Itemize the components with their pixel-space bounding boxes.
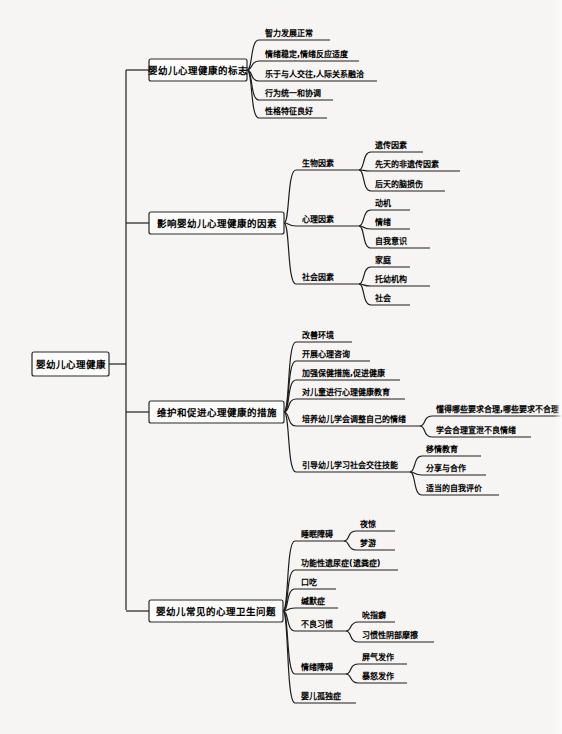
grandchild-node-label: 屏气发作 <box>362 652 394 662</box>
connector-line <box>359 267 371 284</box>
connector-line <box>283 541 295 611</box>
mindmap-canvas: 婴幼儿心理健康婴幼儿心理健康的标志智力发展正常情绪稳定,情绪反应适度乐于与人交往… <box>0 0 562 734</box>
connector-line <box>247 70 259 100</box>
grandchild-node-label: 情绪 <box>374 217 391 227</box>
child-node-label: 乐于与人交往,人际关系融洽 <box>265 69 365 79</box>
child-node-label: 情绪障碍 <box>300 662 333 672</box>
connector-line <box>420 416 432 426</box>
connector-line <box>284 223 296 284</box>
grandchild-node-label: 分享与合作 <box>426 463 466 473</box>
branch-node-label: 维护和促进心理健康的措施 <box>157 407 277 418</box>
child-node-label: 功能性遗尿症(遗粪症) <box>301 558 380 568</box>
connector-line <box>344 541 356 550</box>
child-node-label: 社会因素 <box>301 272 334 282</box>
child-node-label: 引导幼儿学习社会交往技能 <box>302 460 398 470</box>
grandchild-node-label: 先天的非遗传因素 <box>375 159 439 169</box>
connector-line <box>346 631 358 642</box>
grandchild-node-label: 吮指癖 <box>362 610 386 620</box>
child-node-label: 开展心理咨询 <box>302 349 350 359</box>
connector-line <box>346 674 358 683</box>
child-node-label: 心理因素 <box>302 214 334 224</box>
grandchild-node-label: 暴怒发作 <box>361 671 394 681</box>
connector-line <box>346 664 358 674</box>
child-node-label: 加强保健措施,促进健康 <box>301 368 386 378</box>
grandchild-node-label: 家庭 <box>375 255 392 265</box>
child-node-label: 对儿童进行心理健康教育 <box>302 387 390 397</box>
grandchild-node-label: 懂得哪些要求合理,哪些要求不合理 <box>435 404 559 414</box>
child-node-label: 不良习惯 <box>301 619 333 629</box>
grandchild-node-label: 移情教育 <box>426 444 458 454</box>
connector-line <box>283 611 295 674</box>
grandchild-node-label: 适当的自我评价 <box>426 483 483 493</box>
connector-line <box>359 152 371 170</box>
connector-line <box>410 456 422 472</box>
mindmap-svg: 婴幼儿心理健康婴幼儿心理健康的标志智力发展正常情绪稳定,情绪反应适度乐于与人交往… <box>0 0 562 734</box>
grandchild-node-label: 自我意识 <box>375 236 407 246</box>
connector-line <box>344 531 356 541</box>
child-node-label: 生物因素 <box>302 158 334 168</box>
child-node-label: 培养幼儿学会调整自己的情绪 <box>302 414 406 424</box>
grandchild-node-label: 夜惊 <box>359 519 376 529</box>
child-node-label: 口吃 <box>301 577 317 587</box>
child-node-label: 行为统一和协调 <box>264 88 321 98</box>
child-node-label: 智力发展正常 <box>265 28 313 38</box>
child-node-label: 睡眠障碍 <box>301 529 333 539</box>
connector-line <box>346 622 358 631</box>
grandchild-node-label: 习惯性阴部摩擦 <box>362 630 418 640</box>
grandchild-node-label: 梦游 <box>359 538 376 548</box>
grandchild-node-label: 动机 <box>375 198 391 208</box>
connector-line <box>247 40 259 70</box>
grandchild-node-label: 学会合理宣泄不良情绪 <box>436 425 516 435</box>
connector-line <box>359 284 371 305</box>
grandchild-node-label: 后天的脑损伤 <box>375 179 423 189</box>
connector-line <box>359 170 371 191</box>
child-node-label: 情绪稳定,情绪反应适度 <box>264 49 349 59</box>
branch-node-label: 婴幼儿常见的心理卫生问题 <box>156 606 276 617</box>
grandchild-node-label: 托幼机构 <box>375 274 407 284</box>
connector-line <box>420 426 432 437</box>
child-node-label: 改善环境 <box>302 330 334 340</box>
connector-line <box>284 170 296 223</box>
connector-line <box>359 210 371 226</box>
child-node-label: 性格特征良好 <box>265 106 313 116</box>
grandchild-node-label: 遗传因素 <box>374 140 407 150</box>
branch-node-label: 影响婴幼儿心理健康的因素 <box>157 218 277 229</box>
child-node-label: 缄默症 <box>301 596 325 606</box>
child-node-label: 婴儿孤独症 <box>301 691 341 701</box>
root-node-label: 婴幼儿心理健康 <box>36 359 106 370</box>
grandchild-node-label: 社会 <box>374 293 391 303</box>
page-edge <box>554 0 562 734</box>
branch-node-label: 婴幼儿心理健康的标志 <box>148 65 248 76</box>
